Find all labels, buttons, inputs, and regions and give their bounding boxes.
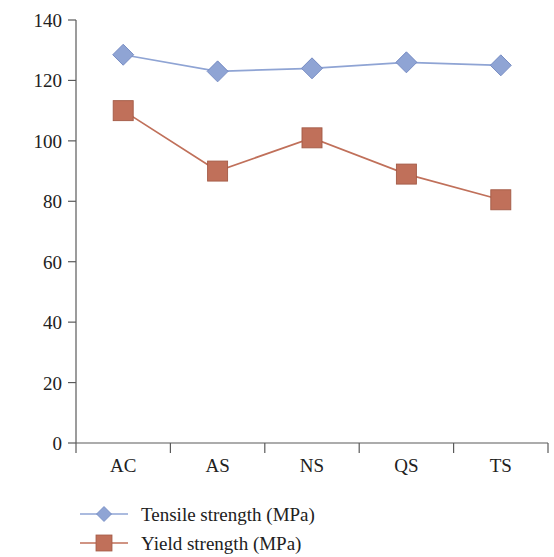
line-chart: 140 120 100 80 60 40 20 0 AC AS NS QS TS — [0, 0, 554, 557]
legend-entry-tensile[interactable]: Tensile strength (MPa) — [80, 504, 315, 526]
data-point-square[interactable] — [396, 164, 416, 184]
chart-legend: Tensile strength (MPa) Yield strength (M… — [80, 504, 315, 555]
legend-entry-yield[interactable]: Yield strength (MPa) — [80, 533, 301, 555]
series-tensile — [113, 44, 512, 82]
y-tick-label: 20 — [43, 373, 62, 394]
x-axis-ticks — [76, 443, 548, 453]
y-axis-tick-labels: 140 120 100 80 60 40 20 0 — [34, 10, 63, 454]
y-tick-label: 0 — [53, 433, 63, 454]
series-line — [123, 111, 501, 200]
y-tick-label: 140 — [34, 10, 63, 31]
y-tick-label: 100 — [34, 131, 63, 152]
x-tick-label: AC — [110, 455, 136, 476]
x-tick-label: AS — [205, 455, 229, 476]
chart-canvas: 140 120 100 80 60 40 20 0 AC AS NS QS TS — [0, 0, 554, 557]
x-tick-label: NS — [300, 455, 324, 476]
y-tick-label: 60 — [43, 252, 62, 273]
y-tick-label: 80 — [43, 191, 62, 212]
data-point-diamond[interactable] — [113, 44, 134, 65]
series-yield — [113, 101, 511, 210]
square-marker-icon — [96, 535, 112, 551]
data-point-diamond[interactable] — [490, 55, 511, 76]
data-point-diamond[interactable] — [396, 52, 417, 73]
x-tick-label: QS — [394, 455, 418, 476]
data-point-diamond[interactable] — [302, 58, 323, 79]
data-point-diamond[interactable] — [207, 61, 228, 82]
data-point-square[interactable] — [208, 161, 228, 181]
y-tick-label: 40 — [43, 312, 62, 333]
series-layer — [113, 44, 512, 210]
x-tick-label: TS — [490, 455, 512, 476]
y-axis-ticks — [68, 20, 76, 443]
legend-label-yield: Yield strength (MPa) — [141, 533, 301, 555]
data-point-square[interactable] — [113, 101, 133, 121]
x-axis-tick-labels: AC AS NS QS TS — [110, 455, 512, 476]
data-point-square[interactable] — [491, 190, 511, 210]
data-point-square[interactable] — [302, 128, 322, 148]
diamond-marker-icon — [97, 507, 112, 522]
y-tick-label: 120 — [34, 70, 63, 91]
legend-label-tensile: Tensile strength (MPa) — [141, 504, 315, 526]
